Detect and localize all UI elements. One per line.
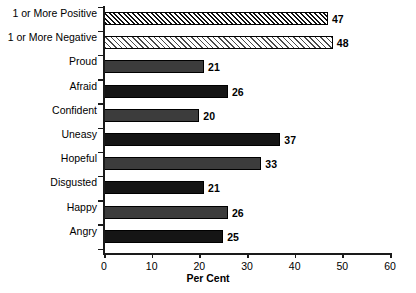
y-axis-tick [98, 152, 103, 154]
category-label-hopeful: Hopeful [61, 152, 97, 164]
y-axis-tick [98, 7, 103, 9]
y-axis-tick [98, 200, 103, 202]
category-label-uneasy: Uneasy [61, 128, 97, 140]
x-axis-tick-label: 10 [137, 260, 167, 272]
category-label-afraid: Afraid [70, 80, 97, 92]
category-label-disgusted: Disgusted [50, 176, 97, 188]
x-axis-tick-label: 20 [184, 260, 214, 272]
bar-value-label: 21 [208, 61, 220, 74]
category-label-confident: Confident [52, 104, 97, 116]
bar-value-label: 26 [232, 86, 244, 99]
bar-happy [104, 206, 228, 219]
bar-value-label: 47 [332, 13, 344, 26]
category-label-1-or-more-negative: 1 or More Negative [8, 31, 97, 43]
bar-value-label: 33 [265, 158, 277, 171]
y-axis-tick [98, 176, 103, 178]
x-axis-tick [152, 253, 154, 258]
bar-value-label: 48 [337, 37, 349, 50]
category-axis-labels: 1 or More Positive1 or More NegativeProu… [0, 0, 97, 260]
y-axis-tick [98, 55, 103, 57]
bar-proud [104, 60, 204, 73]
bar-afraid [104, 85, 228, 98]
bar-value-label: 21 [208, 182, 220, 195]
category-label-happy: Happy [67, 201, 97, 213]
y-axis-tick [98, 31, 103, 33]
bar-uneasy [104, 133, 280, 146]
y-axis-line [103, 6, 105, 254]
y-axis-tick [98, 224, 103, 226]
bar-disgusted [104, 181, 204, 194]
x-axis-tick [104, 253, 106, 258]
category-label-1-or-more-positive: 1 or More Positive [12, 7, 97, 19]
x-axis-tick [199, 253, 201, 258]
y-axis-tick [98, 128, 103, 130]
bar-confident [104, 109, 199, 122]
bar-value-label: 37 [284, 134, 296, 147]
x-axis-tick-label: 40 [280, 260, 310, 272]
bar-1-or-more-positive [104, 12, 328, 25]
bar-1-or-more-negative [104, 36, 333, 49]
x-axis-title: Per Cent [0, 272, 416, 284]
bar-hopeful [104, 157, 261, 170]
x-axis-tick [295, 253, 297, 258]
category-label-angry: Angry [70, 225, 97, 237]
category-label-proud: Proud [69, 55, 97, 67]
x-axis-tick [342, 253, 344, 258]
x-axis-tick-label: 50 [327, 260, 357, 272]
y-axis-tick [98, 79, 103, 81]
x-axis-tick [390, 253, 392, 258]
x-axis-line: 0102030405060 [103, 253, 391, 255]
bar-value-label: 26 [232, 207, 244, 220]
plot-area: 47482126203733212625 [104, 6, 390, 253]
y-axis-tick [98, 249, 103, 251]
bar-value-label: 20 [203, 110, 215, 123]
x-axis-tick-label: 60 [375, 260, 405, 272]
y-axis-tick [98, 103, 103, 105]
bar-chart: 1 or More Positive1 or More NegativeProu… [0, 0, 416, 293]
bar-angry [104, 230, 223, 243]
x-axis-tick-label: 0 [89, 260, 119, 272]
x-axis-tick [247, 253, 249, 258]
bar-value-label: 25 [227, 231, 239, 244]
x-axis-tick-label: 30 [232, 260, 262, 272]
